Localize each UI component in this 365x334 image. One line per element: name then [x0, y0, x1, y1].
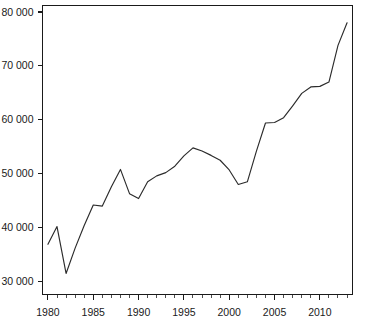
y-tick-label: 40 000 — [1, 221, 33, 233]
y-tick-label: 30 000 — [1, 275, 33, 287]
y-tick-label: 70 000 — [1, 59, 33, 71]
x-tick-label: 1995 — [172, 306, 196, 318]
data-series-group — [48, 23, 347, 274]
x-axis-ticks — [48, 295, 347, 301]
x-tick-label: 2000 — [218, 306, 242, 318]
x-tick-label: 1980 — [36, 306, 60, 318]
y-tick-label: 80 000 — [1, 6, 33, 18]
x-tick-label: 2005 — [263, 306, 287, 318]
y-tick-label: 60 000 — [1, 113, 33, 125]
chart-figure: 30 00040 00050 00060 00070 00080 000 198… — [0, 0, 365, 334]
y-tick-label: 50 000 — [1, 167, 33, 179]
y-axis-ticks — [38, 12, 43, 282]
line-chart-svg: 30 00040 00050 00060 00070 00080 000 198… — [0, 0, 365, 334]
x-tick-label: 1985 — [82, 306, 106, 318]
x-tick-label: 1990 — [127, 306, 151, 318]
x-axis-tick-labels: 1980198519901995200020052010 — [36, 306, 331, 318]
x-tick-label: 2010 — [308, 306, 332, 318]
data-line-series-1 — [48, 23, 347, 274]
y-axis-tick-labels: 30 00040 00050 00060 00070 00080 000 — [1, 6, 33, 288]
